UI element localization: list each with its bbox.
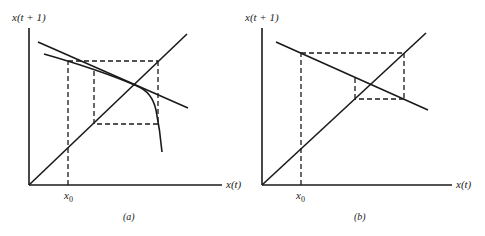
- x0-subscript-b: 0: [301, 195, 305, 204]
- tangent-line-a: [38, 42, 188, 108]
- caption-b: (b): [354, 211, 366, 222]
- map-curve-a: [44, 54, 162, 152]
- diagonal-line-b: [262, 33, 426, 185]
- x0-label-b: x0: [296, 189, 305, 204]
- caption-a: (a): [123, 211, 135, 222]
- cobweb-path-a: [68, 61, 158, 185]
- x-axis-label-b: x(t): [456, 178, 471, 190]
- x-axis-label-a: x(t): [226, 178, 241, 190]
- y-axis-label-a: x(t + 1): [12, 11, 46, 23]
- x0-subscript-a: 0: [69, 195, 73, 204]
- panel-a: [29, 28, 222, 185]
- x0-label-a: x0: [64, 189, 73, 204]
- y-axis-label-b: x(t + 1): [245, 11, 279, 23]
- cobweb-path-b: [301, 53, 404, 185]
- panel-b: [262, 28, 452, 185]
